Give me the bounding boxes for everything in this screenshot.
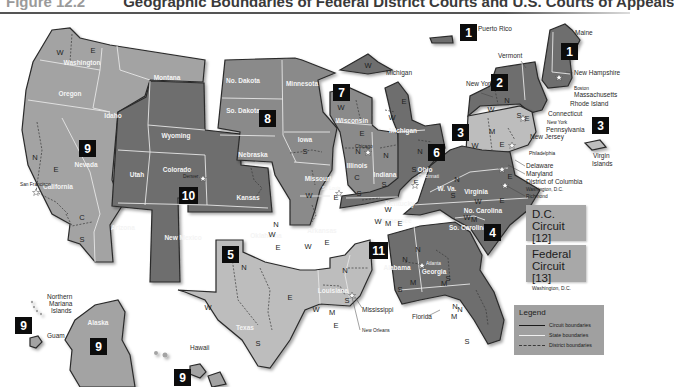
svg-text:S: S: [344, 296, 349, 305]
label-guam: Guam: [47, 332, 65, 339]
svg-text:N: N: [241, 263, 246, 272]
label-georgia: Georgia: [422, 268, 447, 276]
badge-circuit-9-alaska: 9: [90, 338, 107, 355]
svg-text:9: 9: [179, 371, 186, 385]
map-legend: Legend Circuit boundaries State boundari…: [514, 305, 604, 355]
svg-text:N: N: [454, 175, 459, 184]
badge-circuit-1-pr: 1: [460, 24, 477, 41]
label-no-dakota: No. Dakota: [226, 77, 260, 84]
svg-text:C: C: [354, 173, 360, 182]
svg-text:4: 4: [489, 226, 496, 240]
label-district-of-columbia: District of Columbia: [526, 178, 583, 185]
svg-text:M: M: [410, 278, 416, 287]
label-maine: Maine: [575, 29, 593, 36]
legend-item-state: State boundaries: [519, 330, 599, 340]
federal-circuit-box: Federal Circuit [13] Washington, D.C.: [526, 245, 586, 282]
svg-text:N: N: [342, 266, 347, 275]
svg-text:W: W: [304, 242, 312, 251]
label-michigan: Michigan: [389, 127, 417, 135]
svg-text:W: W: [471, 141, 479, 150]
label-kansas: Kansas: [236, 194, 260, 201]
label-so-carolina: So. Carolina: [449, 224, 487, 231]
label-northern-3: Islands: [51, 307, 72, 314]
label-new-jersey: New Jersey: [530, 133, 565, 141]
badge-circuit-6: 6: [428, 144, 445, 161]
svg-text:W: W: [56, 48, 64, 57]
label-washington-dc: Washington, D.C.: [526, 187, 563, 192]
circuit-line-swatch: [519, 325, 545, 326]
badge-circuit-8: 8: [259, 110, 276, 127]
label-massachusetts: Massachusetts: [574, 91, 618, 98]
badge-circuit-3: 3: [452, 124, 469, 141]
svg-text:N: N: [452, 302, 457, 311]
label-florida: Florida: [412, 313, 432, 320]
svg-text:1: 1: [465, 26, 472, 40]
badge-circuit-11: 11: [369, 242, 388, 259]
svg-text:S: S: [445, 274, 450, 283]
svg-text:E: E: [401, 97, 406, 106]
svg-text:11: 11: [372, 244, 385, 258]
svg-text:M: M: [471, 215, 477, 224]
svg-text:7: 7: [338, 86, 345, 100]
svg-text:M: M: [489, 127, 495, 136]
federal-circuit-location: Washington, D.C.: [532, 285, 586, 291]
label-new-york-state: New York: [466, 80, 494, 87]
badge-circuit-9-guam: 9: [15, 317, 32, 334]
label-wyoming: Wyoming: [161, 132, 190, 140]
label-northern-1: Northern: [47, 293, 73, 300]
svg-text:1: 1: [566, 45, 573, 59]
label-delaware: Delaware: [526, 162, 554, 169]
label-illinois: Illinois: [347, 162, 368, 169]
svg-text:N: N: [383, 151, 388, 160]
svg-text:S: S: [79, 235, 84, 244]
svg-text:N: N: [402, 255, 407, 264]
city-atlanta: Atlanta: [426, 261, 441, 266]
svg-text:W: W: [384, 205, 392, 214]
svg-text:S: S: [302, 147, 307, 156]
label-virgin-islands-2: Islands: [592, 160, 613, 167]
badge-circuit-9: 9: [79, 140, 96, 157]
label-idaho: Idaho: [104, 112, 121, 119]
label-richmond: Richmond: [526, 194, 548, 199]
svg-text:N: N: [273, 220, 278, 229]
label-michigan-up: Michigan: [386, 69, 412, 77]
city-st-louis: St. Louis: [322, 186, 341, 191]
label-vermont: Vermont: [498, 52, 522, 59]
district-line-swatch: [519, 345, 545, 346]
svg-text:S: S: [255, 339, 260, 348]
svg-text:S: S: [411, 165, 416, 174]
badge-circuit-4: 4: [484, 224, 501, 241]
label-virgin-islands-1: Virgin: [593, 152, 610, 160]
label-nevada: Nevada: [74, 161, 98, 168]
svg-text:M: M: [385, 219, 391, 228]
svg-text:W: W: [374, 217, 382, 226]
label-indiana: Indiana: [374, 171, 397, 178]
label-northern-2: Mariana: [49, 300, 73, 307]
svg-text:S: S: [356, 189, 361, 198]
federal-circuit-name: Federal Circuit [13]: [532, 248, 586, 284]
svg-text:10: 10: [182, 189, 196, 203]
legend-item-circuit: Circuit boundaries: [519, 320, 599, 330]
label-utah: Utah: [130, 171, 144, 178]
svg-text:M: M: [329, 308, 335, 317]
svg-text:3: 3: [597, 119, 604, 133]
label-iowa: Iowa: [298, 136, 313, 143]
seat-star-san-francisco: [33, 189, 40, 196]
svg-text:N: N: [504, 96, 509, 105]
svg-text:W: W: [474, 197, 482, 206]
label-wisconsin: Wisconsin: [336, 117, 368, 124]
svg-text:S: S: [464, 337, 469, 346]
label-minnesota: Minnesota: [286, 80, 319, 87]
svg-text:E: E: [507, 172, 512, 181]
svg-text:W: W: [312, 305, 320, 314]
svg-text:N: N: [32, 153, 37, 162]
label-so-dakota: So. Dakota: [226, 107, 260, 114]
state-line-swatch: [519, 335, 545, 336]
badge-circuit-1: 1: [561, 43, 578, 60]
svg-text:W: W: [388, 113, 396, 122]
badge-circuit-7: 7: [333, 84, 350, 101]
svg-text:W: W: [204, 303, 212, 312]
label-rhode-island: Rhode Island: [570, 100, 609, 107]
svg-text:N: N: [417, 147, 422, 156]
svg-text:2: 2: [496, 76, 503, 90]
